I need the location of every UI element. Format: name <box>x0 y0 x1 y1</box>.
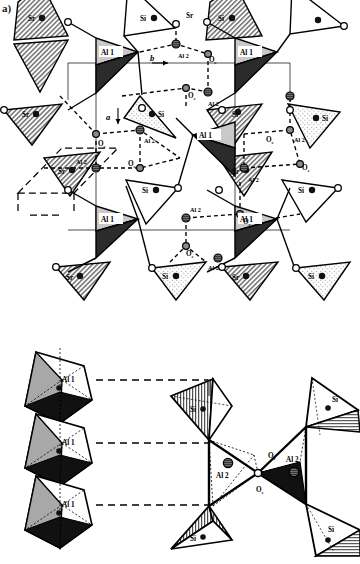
figure-svg: a) <box>0 0 360 564</box>
axis-b-label: b <box>150 53 154 63</box>
si-label: Si <box>158 111 164 119</box>
sr-label: Sr <box>58 168 66 176</box>
al2-label: Al 2 <box>286 456 299 464</box>
si-label: Si <box>162 273 168 281</box>
al1-label: Al 1 <box>62 501 75 509</box>
si-label: Si <box>332 396 338 404</box>
al2-label: Al 2 <box>208 100 219 107</box>
al1-label: Al 1 <box>101 48 114 57</box>
crystal-structure-figure: a) <box>0 0 360 564</box>
sr-label: Sr <box>232 274 240 282</box>
sr-label: Sr <box>28 15 36 23</box>
si-label: Si <box>190 406 196 414</box>
oc-atom <box>254 469 261 476</box>
sr-label: Sr <box>22 111 30 119</box>
al1-label: Al 1 <box>62 376 75 384</box>
al1-label: Al 1 <box>62 439 75 447</box>
al2-label: Al 2 <box>216 472 229 480</box>
al2-label: Al 2 <box>294 136 305 143</box>
si-label: Si <box>308 273 314 281</box>
al2-label: Al 2 <box>190 206 201 213</box>
si-label: Si <box>322 115 328 123</box>
al2-label: Al 2 <box>208 264 219 271</box>
al2-atom <box>289 467 298 476</box>
al2-label: Al 2 <box>76 158 87 165</box>
sr-label: Sr <box>66 274 74 282</box>
al1-label: Al 1 <box>240 48 253 57</box>
sr-label: Sr <box>186 12 194 20</box>
si-label: Si <box>218 15 224 23</box>
si-label: Si <box>190 535 196 543</box>
sr-label: Sr <box>232 168 240 176</box>
al1-label: Al 1 <box>101 215 114 224</box>
al2-label: Al 2 <box>144 137 155 144</box>
si-label: Si <box>142 187 148 195</box>
sr-label: Sr <box>232 111 240 119</box>
si-label: Si <box>328 526 334 534</box>
al2-label: Al 2 <box>178 52 189 59</box>
si-label: Si <box>140 15 146 23</box>
al2-atom <box>223 458 232 467</box>
al1-octahedra-chain: Al 1 Al 1 <box>25 348 92 552</box>
panel-a-label: a) <box>2 2 12 15</box>
al1-label: Al 1 <box>199 131 212 140</box>
al2-label: Al 2 <box>248 176 259 183</box>
si-label: Si <box>298 187 304 195</box>
